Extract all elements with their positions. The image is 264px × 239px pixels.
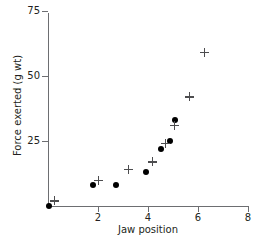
x-axis-title: Jaw position bbox=[48, 224, 248, 235]
data-point-plus bbox=[170, 121, 179, 130]
data-point-circle bbox=[113, 182, 119, 188]
x-tick-label: 8 bbox=[238, 212, 258, 223]
data-point-plus bbox=[200, 48, 209, 57]
scatter-chart: 255075 2468 Jaw position Force exerted (… bbox=[0, 0, 264, 239]
x-tick-label: 4 bbox=[138, 212, 158, 223]
data-point-plus bbox=[185, 92, 194, 101]
data-point-circle bbox=[143, 169, 149, 175]
data-point-plus bbox=[94, 176, 103, 185]
y-tick-mark bbox=[42, 11, 48, 12]
data-point-plus bbox=[161, 139, 170, 148]
y-axis-line bbox=[48, 13, 49, 207]
y-axis-title: Force exerted (g wt) bbox=[12, 31, 23, 181]
data-point-plus bbox=[124, 165, 133, 174]
data-point-plus bbox=[50, 196, 59, 205]
y-tick-mark bbox=[42, 76, 48, 77]
x-tick-label: 2 bbox=[88, 212, 108, 223]
y-tick-label: 75 bbox=[14, 6, 40, 16]
data-point-plus bbox=[148, 157, 157, 166]
y-tick-mark bbox=[42, 141, 48, 142]
x-tick-label: 6 bbox=[188, 212, 208, 223]
